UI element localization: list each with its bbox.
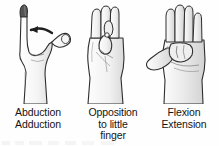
caption-flexion-extension: Flexion Extension <box>149 104 219 130</box>
figure-root: Abduction Adduction Opposition to little… <box>0 0 219 146</box>
middle-finger <box>175 5 185 42</box>
panel-flexion-extension <box>144 0 219 104</box>
index-finger <box>166 9 175 42</box>
illustration-row <box>0 0 219 104</box>
page-edge-artifact <box>2 141 128 145</box>
thumb-shape <box>99 36 112 54</box>
caption-line: Extension <box>149 119 219 131</box>
caption-line: Adduction <box>0 119 76 131</box>
ring-finger <box>184 6 193 42</box>
caption-abduction-adduction: Abduction Adduction <box>0 104 76 130</box>
caption-line: Flexion <box>149 107 219 119</box>
caption-line: Abduction <box>0 107 76 119</box>
caption-opposition: Opposition to little finger <box>77 104 149 142</box>
flexed-knuckle-shape <box>169 43 192 62</box>
index-finger-tip <box>20 5 28 17</box>
caption-row: Abduction Adduction Opposition to little… <box>0 104 219 146</box>
hand-flexion-extension-illustration <box>144 0 219 104</box>
abduction-arrow-head <box>31 26 38 33</box>
panel-abduction-adduction <box>0 0 74 104</box>
hand-opposition-illustration <box>74 0 144 104</box>
thumb-nail <box>62 35 70 44</box>
hand-abduction-adduction-illustration <box>0 0 74 104</box>
thumb-pinky-contact-point <box>105 33 109 37</box>
index-finger <box>91 9 101 38</box>
panel-opposition <box>74 0 144 104</box>
little-finger <box>193 13 202 42</box>
caption-line: Opposition <box>77 107 149 119</box>
